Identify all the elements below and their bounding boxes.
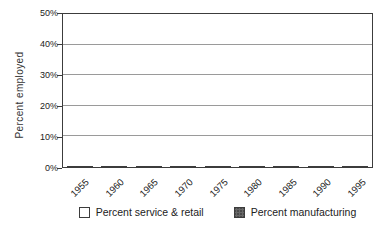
x-tick-label-1975: 1975 <box>207 176 230 199</box>
x-tick-cell-1980: 1980 <box>239 169 265 201</box>
employment-bar-chart-figure: Percent employed 0%10%20%30%40%50% 19551… <box>0 0 384 234</box>
bar-service-1985 <box>273 166 287 167</box>
x-tick-cell-1995: 1995 <box>343 169 369 201</box>
bar-group-1970 <box>170 166 196 167</box>
bar-group-1990 <box>308 166 334 167</box>
bar-mfg-1985 <box>286 166 299 167</box>
bar-mfg-1990 <box>321 166 334 167</box>
x-tick-label-1970: 1970 <box>172 176 195 199</box>
plot-area <box>62 13 373 168</box>
x-tick-cell-1975: 1975 <box>205 169 231 201</box>
bar-service-1990 <box>308 166 322 167</box>
legend-marker-mfg <box>234 207 245 218</box>
x-tick-label-1985: 1985 <box>276 176 299 199</box>
x-tick-label-1980: 1980 <box>241 176 264 199</box>
legend-label-mfg: Percent manufacturing <box>251 206 357 218</box>
bar-series-area <box>63 14 372 167</box>
bar-service-1995 <box>342 166 356 167</box>
bar-group-1955 <box>67 166 93 167</box>
legend-marker-service <box>79 207 90 218</box>
bar-group-1985 <box>273 166 299 167</box>
x-tick-label-1990: 1990 <box>311 176 334 199</box>
x-tick-cell-1955: 1955 <box>66 169 92 201</box>
x-tick-label-1965: 1965 <box>137 176 160 199</box>
x-tick-label-1960: 1960 <box>103 176 126 199</box>
bar-mfg-1960 <box>114 166 127 167</box>
bar-mfg-1955 <box>80 166 93 167</box>
bar-group-1975 <box>205 166 231 167</box>
x-tick-label-1995: 1995 <box>345 176 368 199</box>
bar-service-1955 <box>67 166 81 167</box>
x-tick-cell-1965: 1965 <box>135 169 161 201</box>
y-axis-title: Percent employed <box>14 51 25 138</box>
bar-service-1965 <box>136 166 150 167</box>
y-tick-label-10: 10% <box>24 132 58 142</box>
bar-group-1965 <box>136 166 162 167</box>
x-tick-cell-1960: 1960 <box>101 169 127 201</box>
bar-mfg-1970 <box>183 166 196 167</box>
y-tick-label-20: 20% <box>24 101 58 111</box>
bar-mfg-1965 <box>149 166 162 167</box>
bar-service-1970 <box>170 166 184 167</box>
bar-service-1975 <box>205 166 219 167</box>
legend-item-service: Percent service & retail <box>79 206 204 218</box>
bar-mfg-1980 <box>252 166 265 167</box>
x-tick-cell-1970: 1970 <box>170 169 196 201</box>
y-tick-label-50: 50% <box>24 8 58 18</box>
y-tick-label-0: 0% <box>24 163 58 173</box>
bar-mfg-1995 <box>355 166 368 167</box>
x-tick-label-1955: 1955 <box>68 176 91 199</box>
bar-group-1980 <box>239 166 265 167</box>
bar-group-1960 <box>101 166 127 167</box>
legend: Percent service & retailPercent manufact… <box>62 206 373 218</box>
legend-item-mfg: Percent manufacturing <box>234 206 357 218</box>
legend-label-service: Percent service & retail <box>96 206 204 218</box>
bar-service-1960 <box>101 166 115 167</box>
x-axis: 195519601965197019751980198519901995 <box>62 169 373 203</box>
y-tick-label-40: 40% <box>24 39 58 49</box>
bar-group-1995 <box>342 166 368 167</box>
bar-service-1980 <box>239 166 253 167</box>
bar-mfg-1975 <box>218 166 231 167</box>
x-tick-cell-1985: 1985 <box>274 169 300 201</box>
y-tick-label-30: 30% <box>24 70 58 80</box>
x-tick-cell-1990: 1990 <box>308 169 334 201</box>
